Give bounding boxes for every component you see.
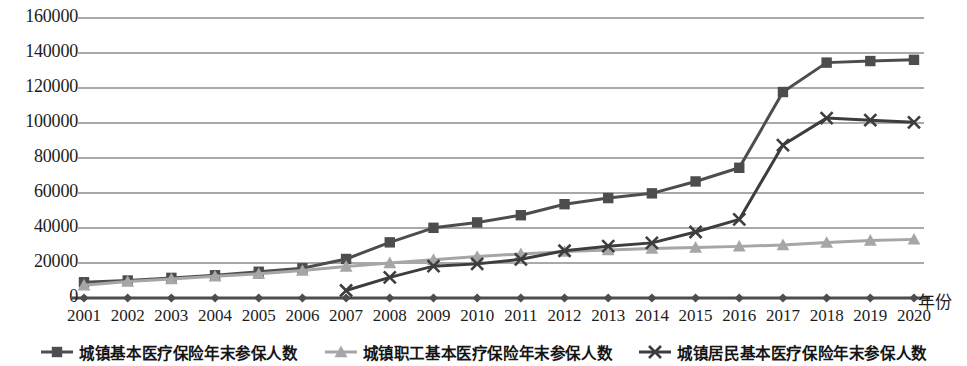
- x-axis-tick-marker: [254, 293, 263, 302]
- data-point-marker-square: [909, 55, 919, 65]
- x-axis-tick-marker: [385, 293, 394, 302]
- data-point-marker-square: [821, 57, 831, 67]
- legend-marker-x-icon: [638, 343, 672, 361]
- y-axis-tick-label: 140000: [0, 41, 78, 62]
- legend-marker-triangle-icon: [324, 343, 358, 361]
- data-point-marker-square: [385, 237, 395, 247]
- y-axis-tick-label: 40000: [0, 216, 78, 237]
- x-axis-tick-marker: [560, 293, 569, 302]
- data-point-marker-square: [690, 176, 700, 186]
- x-axis-title: 年份: [918, 288, 952, 313]
- data-point-marker-square: [559, 199, 569, 209]
- legend-label: 城镇基本医疗保险年末参保人数: [79, 341, 297, 363]
- x-axis-tick-marker: [79, 293, 88, 302]
- legend-label: 城镇职工基本医疗保险年末参保人数: [363, 341, 613, 363]
- y-axis-tick-label: 60000: [0, 181, 78, 202]
- x-axis-tick-marker: [778, 293, 787, 302]
- legend-item[interactable]: 城镇基本医疗保险年末参保人数: [40, 341, 297, 363]
- legend-item[interactable]: 城镇居民基本医疗保险年末参保人数: [638, 341, 927, 363]
- x-axis: [72, 293, 930, 302]
- data-point-marker-square: [52, 347, 62, 357]
- x-axis-tick-marker: [735, 293, 744, 302]
- y-axis-tick-label: 100000: [0, 111, 78, 132]
- x-axis-tick-marker: [123, 293, 132, 302]
- y-axis-tick-label: 80000: [0, 146, 78, 167]
- data-point-marker-square: [865, 56, 875, 66]
- y-axis-tick-label: 0: [0, 286, 78, 307]
- x-axis-tick-marker: [866, 293, 875, 302]
- x-axis-tick-marker: [167, 293, 176, 302]
- x-axis-tick-marker: [298, 293, 307, 302]
- data-point-marker-square: [647, 188, 657, 198]
- x-axis-tick-marker: [604, 293, 613, 302]
- x-axis-tick-marker: [822, 293, 831, 302]
- data-point-marker-square: [778, 87, 788, 97]
- data-point-marker-square: [603, 193, 613, 203]
- y-axis-tick-label: 120000: [0, 76, 78, 97]
- chart-container: 0200004000060000800001000001200001400001…: [0, 0, 967, 366]
- data-point-marker-square: [428, 223, 438, 233]
- legend-marker-square-icon: [40, 343, 74, 361]
- data-point-marker-square: [516, 210, 526, 220]
- x-axis-tick-marker: [691, 293, 700, 302]
- y-axis-tick-label: 20000: [0, 251, 78, 272]
- data-point-marker-square: [472, 217, 482, 227]
- series-line: [84, 60, 914, 282]
- series-3: [340, 112, 920, 296]
- series-1: [79, 55, 919, 288]
- data-point-marker-square: [734, 163, 744, 173]
- x-axis-tick-marker: [473, 293, 482, 302]
- x-axis-tick-marker: [210, 293, 219, 302]
- x-axis-tick-marker: [429, 293, 438, 302]
- legend-label: 城镇居民基本医疗保险年末参保人数: [677, 341, 927, 363]
- legend-item[interactable]: 城镇职工基本医疗保险年末参保人数: [324, 341, 613, 363]
- x-axis-tick-marker: [647, 293, 656, 302]
- chart-legend: 城镇基本医疗保险年末参保人数城镇职工基本医疗保险年末参保人数城镇居民基本医疗保险…: [0, 341, 967, 363]
- x-axis-tick-marker: [516, 293, 525, 302]
- y-axis-tick-label: 160000: [0, 6, 78, 27]
